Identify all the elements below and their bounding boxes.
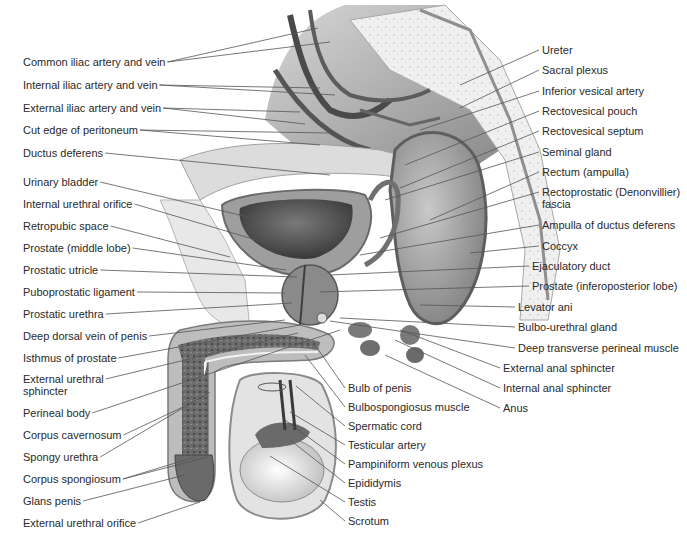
urinary-bladder	[222, 190, 371, 276]
label-left-18: Corpus spongiosum	[23, 473, 121, 485]
label-right-0: Ureter	[542, 44, 573, 56]
perineal-muscles	[348, 322, 424, 363]
label-right-4: Rectovesical septum	[542, 125, 644, 137]
label-left-8: Prostate (middle lobe)	[23, 242, 131, 254]
label-right-2: Inferior vesical artery	[542, 85, 644, 97]
label-right-16: Internal anal sphincter	[503, 382, 611, 394]
leader-line	[138, 502, 200, 523]
label-right-10: Ejaculatory duct	[532, 260, 610, 272]
label-right-1: Sacral plexus	[542, 64, 608, 76]
label-left-14: External urethralsphincter	[23, 373, 133, 397]
label-right-23: Epididymis	[348, 477, 401, 489]
label-left-6: Internal urethral orifice	[23, 198, 132, 210]
label-left-20: External urethral orifice	[23, 517, 136, 529]
label-right-18: Bulb of penis	[348, 382, 412, 394]
leader-line	[395, 340, 500, 388]
label-left-4: Ductus deferens	[23, 147, 103, 159]
label-right-9: Coccyx	[542, 240, 578, 252]
anatomy-figure: Common iliac artery and veinInternal ili…	[0, 0, 687, 536]
label-left-17: Spongy urethra	[23, 451, 98, 463]
label-right-24: Testis	[348, 496, 376, 508]
leader-line	[137, 292, 285, 293]
label-right-17: Anus	[503, 402, 528, 414]
label-right-25: Scrotum	[348, 515, 389, 527]
leader-line	[320, 500, 345, 521]
label-left-0: Common iliac artery and vein	[23, 56, 165, 68]
label-right-14: Deep transverse perineal muscle	[518, 342, 679, 354]
label-left-16: Corpus cavernosum	[23, 429, 121, 441]
label-right-6: Rectum (ampulla)	[542, 166, 629, 178]
label-left-1: Internal iliac artery and vein	[23, 79, 158, 91]
label-right-15: External anal sphincter	[503, 362, 615, 374]
label-right-5: Seminal gland	[542, 146, 612, 158]
label-right-21: Testicular artery	[348, 439, 426, 451]
label-left-11: Prostatic urethra	[23, 308, 104, 320]
label-right-20: Spermatic cord	[348, 420, 422, 432]
prostate	[282, 265, 338, 325]
label-right-12: Levator ani	[518, 301, 572, 313]
label-left-2: External iliac artery and vein	[23, 102, 161, 114]
label-left-3: Cut edge of peritoneum	[23, 124, 138, 136]
label-right-19: Bulbospongiosus muscle	[348, 401, 470, 413]
label-right-8: Ampulla of ductus deferens	[542, 219, 675, 231]
label-left-12: Deep dorsal vein of penis	[23, 330, 147, 342]
label-right-3: Rectovesical pouch	[542, 105, 637, 117]
label-left-13: Isthmus of prostate	[23, 352, 117, 364]
label-left-9: Prostatic utricle	[23, 264, 98, 276]
label-left-10: Puboprostatic ligament	[23, 286, 135, 298]
label-right-7: Rectoprostatic (Denonvillier)fascia	[542, 186, 687, 210]
label-right-11: Prostate (inferoposterior lobe)	[532, 280, 678, 292]
leader-line	[106, 303, 292, 314]
label-left-19: Glans penis	[23, 495, 81, 507]
label-left-5: Urinary bladder	[23, 176, 98, 188]
label-left-7: Retropubic space	[23, 220, 109, 232]
label-left-15: Perineal body	[23, 407, 90, 419]
label-right-22: Pampiniform venous plexus	[348, 458, 483, 470]
label-right-13: Bulbo-urethral gland	[518, 321, 617, 333]
